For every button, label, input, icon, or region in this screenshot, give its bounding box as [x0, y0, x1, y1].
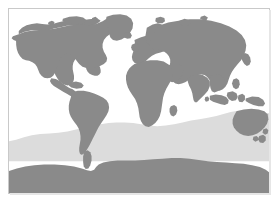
- map-canvas[interactable]: [9, 9, 269, 193]
- world-map-figure: [0, 0, 279, 205]
- map-frame: [8, 8, 270, 194]
